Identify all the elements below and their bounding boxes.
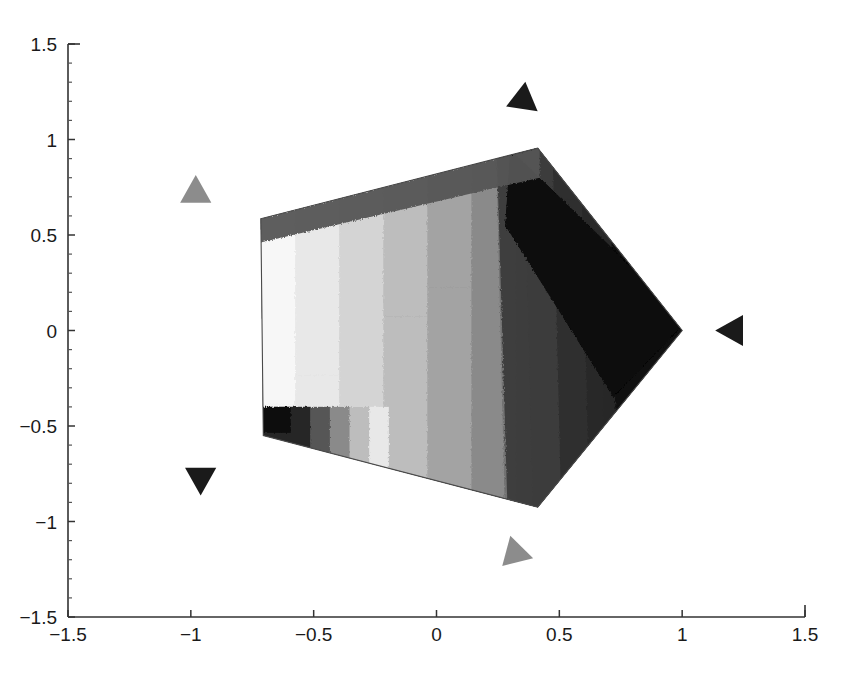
y-tick-label-1: −1 (35, 512, 57, 533)
y-tick-label-0: −1.5 (19, 607, 57, 628)
figure-container: −1.5−1−0.500.511.5−1.5−1−0.500.511.5 (0, 0, 851, 683)
x-tick-label-5: 1 (677, 624, 688, 645)
x-tick-label-2: −0.5 (295, 624, 333, 645)
y-tick-label-6: 1.5 (31, 34, 57, 55)
x-tick-label-6: 1.5 (792, 624, 818, 645)
y-tick-label-4: 0.5 (31, 225, 57, 246)
x-tick-label-3: 0 (431, 624, 442, 645)
y-tick-label-5: 1 (46, 130, 57, 151)
surface-dark-pocket-0 (261, 407, 291, 433)
surface-plot: −1.5−1−0.500.511.5−1.5−1−0.500.511.5 (0, 0, 851, 683)
x-tick-label-4: 0.5 (546, 624, 572, 645)
x-tick-label-1: −1 (180, 624, 202, 645)
y-tick-label-2: −0.5 (19, 416, 57, 437)
y-tick-label-3: 0 (46, 321, 57, 342)
